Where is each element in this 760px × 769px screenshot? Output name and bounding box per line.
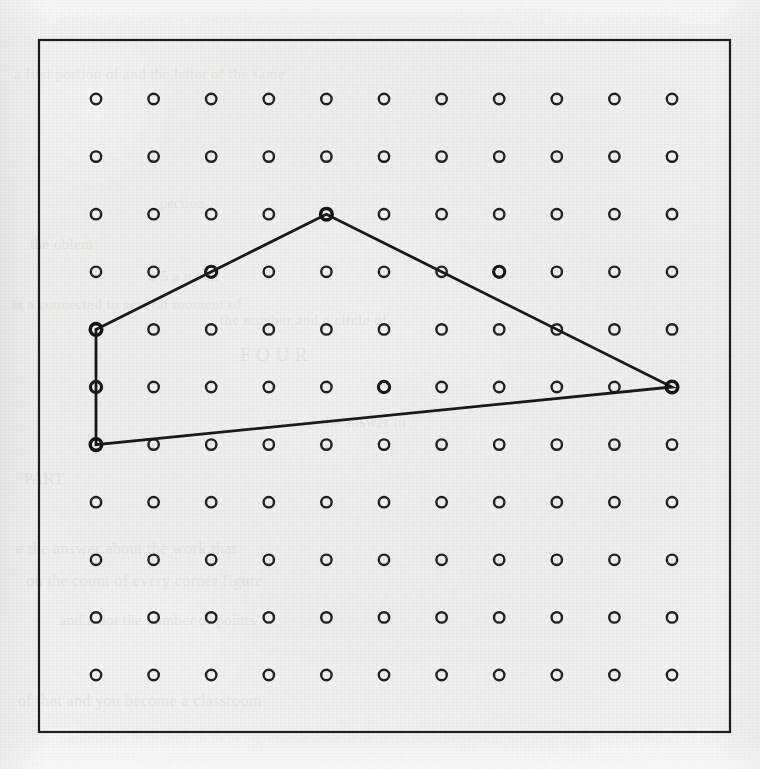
peg-dot — [667, 267, 677, 277]
peg-dot — [609, 151, 619, 161]
peg-dot — [379, 612, 389, 622]
peg-dot — [609, 439, 619, 449]
peg-dot — [436, 94, 446, 104]
peg-dot — [609, 267, 619, 277]
peg-dot — [264, 555, 274, 565]
peg-dot — [552, 267, 562, 277]
peg-dot — [379, 555, 389, 565]
peg-dot — [609, 382, 619, 392]
peg-dot — [321, 555, 331, 565]
peg-dot — [494, 670, 504, 680]
peg-dot — [552, 555, 562, 565]
peg-dot — [321, 612, 331, 622]
peg-dot — [206, 497, 216, 507]
edge-peg-group — [90, 266, 505, 393]
peg-dot — [206, 382, 216, 392]
peg-dot — [609, 209, 619, 219]
peg-dot — [321, 151, 331, 161]
peg-dot — [609, 324, 619, 334]
peg-dot — [609, 497, 619, 507]
peg-dot — [321, 670, 331, 680]
edge-peg-bottom — [378, 381, 389, 392]
peg-dot — [148, 151, 158, 161]
peg-dot — [148, 497, 158, 507]
peg-dot — [379, 670, 389, 680]
peg-dot — [321, 324, 331, 334]
peg-dot — [321, 439, 331, 449]
peg-dot — [264, 670, 274, 680]
peg-dot — [148, 612, 158, 622]
peg-dot — [436, 612, 446, 622]
peg-dot — [609, 612, 619, 622]
peg-dot — [667, 94, 677, 104]
peg-dot — [91, 670, 101, 680]
quadrilateral-outline — [96, 214, 672, 444]
peg-dot — [91, 555, 101, 565]
peg-dot — [552, 439, 562, 449]
edge-peg-upper-right — [494, 266, 505, 277]
peg-dot — [494, 497, 504, 507]
peg-dot — [667, 497, 677, 507]
peg-dot — [379, 151, 389, 161]
peg-dot — [494, 382, 504, 392]
peg-dot — [552, 670, 562, 680]
peg-dot — [264, 209, 274, 219]
peg-dot — [494, 324, 504, 334]
geoboard-figure — [0, 0, 760, 769]
peg-dot — [206, 151, 216, 161]
peg-dot — [436, 382, 446, 392]
peg-grid — [91, 94, 677, 680]
peg-dot — [206, 324, 216, 334]
scanned-page: a first portion of and the letter of the… — [0, 0, 760, 769]
peg-dot — [264, 612, 274, 622]
peg-dot — [264, 324, 274, 334]
peg-dot — [667, 209, 677, 219]
peg-dot — [436, 670, 446, 680]
peg-dot — [436, 151, 446, 161]
peg-dot — [148, 555, 158, 565]
peg-dot — [667, 555, 677, 565]
peg-dot — [552, 151, 562, 161]
peg-dot — [321, 94, 331, 104]
peg-dot — [264, 382, 274, 392]
peg-dot — [206, 612, 216, 622]
peg-dot — [148, 324, 158, 334]
peg-dot — [379, 267, 389, 277]
peg-dot — [436, 555, 446, 565]
peg-dot — [148, 670, 158, 680]
peg-dot — [667, 324, 677, 334]
peg-dot — [264, 439, 274, 449]
peg-dot — [206, 209, 216, 219]
peg-dot — [91, 612, 101, 622]
peg-dot — [552, 612, 562, 622]
peg-dot — [436, 439, 446, 449]
peg-dot — [148, 382, 158, 392]
board-frame-rectangle — [39, 40, 730, 732]
peg-dot — [206, 439, 216, 449]
peg-dot — [206, 555, 216, 565]
peg-dot — [494, 612, 504, 622]
peg-dot — [379, 439, 389, 449]
peg-dot — [264, 267, 274, 277]
peg-dot — [609, 94, 619, 104]
peg-dot — [379, 209, 389, 219]
peg-dot — [91, 497, 101, 507]
peg-dot — [91, 151, 101, 161]
peg-dot — [552, 382, 562, 392]
peg-dot — [206, 670, 216, 680]
peg-dot — [494, 94, 504, 104]
peg-dot — [667, 439, 677, 449]
peg-dot — [609, 670, 619, 680]
peg-dot — [379, 497, 389, 507]
peg-dot — [264, 151, 274, 161]
peg-dot — [321, 267, 331, 277]
peg-dot — [91, 209, 101, 219]
peg-dot — [148, 94, 158, 104]
peg-dot — [264, 497, 274, 507]
peg-dot — [436, 497, 446, 507]
peg-dot — [667, 670, 677, 680]
peg-dot — [667, 612, 677, 622]
peg-dot — [494, 209, 504, 219]
peg-dot — [264, 94, 274, 104]
peg-dot — [148, 209, 158, 219]
